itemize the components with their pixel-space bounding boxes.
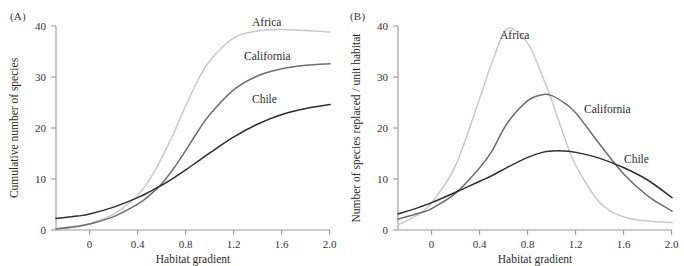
panel-b-axes: [393, 26, 672, 235]
curve-africa-turnover: [398, 28, 672, 225]
panel-b-plot: 40 30 20 10 0 0 0.4 0.8 1.2 1.6 2.0 Habi…: [342, 0, 684, 266]
panel-a: (A) 40 30 20 10: [0, 0, 342, 266]
figure-two-panel-species-turnover: (A) 40 30 20 10: [0, 0, 684, 266]
panel-b-y-axis-title: Number of species replaced / unit habita…: [350, 33, 363, 223]
panel-b-x-tick-labels: 0 0.4 0.8 1.2 1.6 2.0: [429, 238, 679, 250]
panel-b-curves: [398, 28, 672, 225]
panel-a-x-label-12: 1.2: [227, 238, 241, 250]
panel-b: (B) 40 30 20 10: [342, 0, 684, 266]
panel-b-y-tick-labels: 40 30 20 10 0: [377, 20, 389, 236]
panel-b-x-label-16: 1.6: [617, 238, 631, 250]
panel-a-y-label-20: 20: [35, 122, 47, 134]
panel-a-y-label-10: 10: [35, 173, 47, 185]
series-label-africa-a: Africa: [252, 16, 281, 28]
panel-a-x-label-16: 1.6: [275, 238, 289, 250]
panel-b-series-labels: Africa California Chile: [500, 29, 649, 165]
panel-a-y-label-0: 0: [41, 224, 47, 236]
panel-b-x-label-12: 1.2: [569, 238, 583, 250]
panel-b-y-label-10: 10: [377, 173, 389, 185]
series-label-africa-b: Africa: [500, 29, 529, 41]
series-label-california-b: California: [584, 103, 631, 115]
panel-b-y-label-0: 0: [383, 224, 389, 236]
panel-b-x-label-08: 0.8: [521, 238, 535, 250]
panel-b-y-label-30: 30: [377, 71, 389, 83]
panel-a-x-label-08: 0.8: [179, 238, 193, 250]
panel-a-y-tick-labels: 40 30 20 10 0: [35, 20, 47, 236]
series-label-chile-b: Chile: [624, 153, 649, 165]
panel-a-x-tick-labels: 0 0.4 0.8 1.2 1.6 2.0: [87, 238, 337, 250]
panel-b-y-label-20: 20: [377, 122, 389, 134]
curve-chile-cumulative: [56, 105, 330, 219]
panel-a-x-label-0: 0: [87, 238, 93, 250]
panel-b-x-axis-title: Habitat gradient: [498, 253, 573, 266]
panel-b-x-label-20: 2.0: [665, 238, 679, 250]
panel-b-x-label-0: 0: [429, 238, 435, 250]
panel-a-x-label-04: 0.4: [131, 238, 145, 250]
panel-a-x-label-20: 2.0: [323, 238, 337, 250]
panel-b-x-label-04: 0.4: [473, 238, 487, 250]
panel-a-y-label-30: 30: [35, 71, 47, 83]
series-label-california-a: California: [244, 50, 291, 62]
panel-a-plot: 40 30 20 10 0 0 0.4 0.8 1.2 1.6 2.0 Habi…: [0, 0, 342, 266]
panel-a-y-label-40: 40: [35, 20, 47, 32]
panel-a-y-axis-title: Cumulative number of species: [8, 57, 21, 198]
series-label-chile-a: Chile: [252, 93, 277, 105]
panel-a-x-axis-title: Habitat gradient: [156, 253, 231, 266]
panel-b-y-label-40: 40: [377, 20, 389, 32]
